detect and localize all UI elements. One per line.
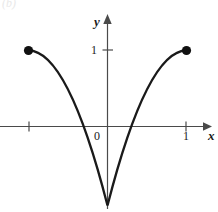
curve-endpoint-right xyxy=(182,46,191,55)
coordinate-plot xyxy=(0,0,218,212)
y-tick-label-one: 1 xyxy=(91,44,97,56)
origin-label: 0 xyxy=(94,130,100,142)
x-tick-label-one: 1 xyxy=(183,130,189,142)
axes-group xyxy=(0,14,212,209)
x-axis-label: x xyxy=(208,129,215,142)
y-axis-arrowhead xyxy=(103,14,111,24)
curve-endpoint-left xyxy=(24,46,33,55)
y-axis-label: y xyxy=(94,15,100,28)
graph-figure: (b) y x 1 1 0 xyxy=(0,0,218,212)
